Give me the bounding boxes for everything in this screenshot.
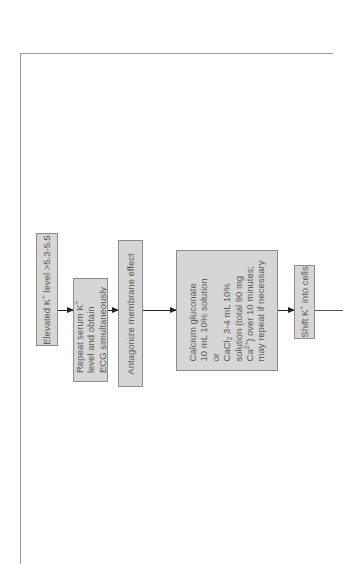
frame-left-border: [20, 53, 21, 564]
node-repeat-serum: Repeat serum K+ level and obtain ECG sim…: [73, 278, 108, 382]
node-shift-potassium: Shift K+ into cells: [294, 265, 315, 339]
node-elevated-potassium: Elevated K+ level >5.3-5.5: [36, 233, 58, 346]
node-text-line: Antagonize membrane effect: [125, 253, 136, 374]
frame-top-border: [20, 53, 333, 54]
node-text-line: or: [210, 260, 221, 361]
node-text: Repeat serum K+ level and obtain ECG sim…: [73, 287, 107, 373]
node-text-line: Repeat serum K+: [73, 287, 84, 373]
arrow-antagonize-to-calcium: [143, 310, 176, 311]
node-text: Antagonize membrane effect: [125, 253, 136, 374]
node-text-line: ECG simultaneously: [96, 287, 107, 373]
node-text: Shift K+ into cells: [299, 266, 310, 337]
node-text: Calcium gluconate 10 mL 10% solution or …: [187, 260, 267, 361]
node-text-line: CaCl2 3-4 mL 10%: [221, 260, 232, 361]
arrow-calcium-to-shift: [278, 310, 294, 311]
node-text-line: 10 mL 10% solution: [198, 260, 209, 361]
node-text-line: level and obtain: [85, 287, 96, 373]
node-calcium-therapy: Calcium gluconate 10 mL 10% solution or …: [176, 250, 278, 371]
arrow-elevated-to-repeat: [58, 310, 73, 311]
node-text: Elevated K+ level >5.3-5.5: [41, 235, 52, 345]
node-antagonize-membrane: Antagonize membrane effect: [118, 240, 143, 387]
arrow-repeat-to-antagonize: [108, 310, 118, 311]
node-text-line: Elevated K+ level >5.3-5.5: [41, 235, 52, 345]
node-text-line: Shift K+ into cells: [299, 266, 310, 337]
node-text-line: Calcium gluconate: [187, 260, 198, 361]
node-text-line: Ca2+) over 10 minutes;: [244, 260, 255, 361]
node-text-line: may repeat if necessary: [256, 260, 267, 361]
connector-continues-offpage: [315, 310, 343, 311]
